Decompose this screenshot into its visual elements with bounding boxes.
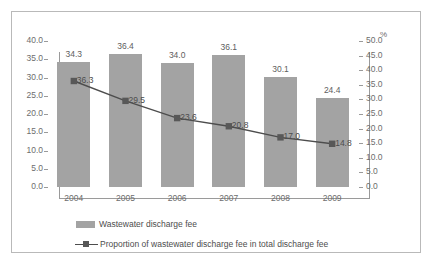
line-marker-icon <box>75 240 98 248</box>
left-axis-tick-label: 10.0 <box>1 146 43 155</box>
category-label-2006: 2006 <box>153 193 201 203</box>
right-axis-tick-mark <box>359 187 363 188</box>
right-axis-tick-mark <box>359 114 363 115</box>
category-label-2008: 2008 <box>257 193 305 203</box>
legend-item-line-label: Proportion of wastewater discharge fee i… <box>100 239 328 249</box>
left-axis-tick-label: 35.0 <box>1 54 43 63</box>
right-axis-tick-mark <box>359 41 363 42</box>
legend-item-bar-label: Wastewater discharge fee <box>99 219 197 229</box>
right-axis-tick-label: 30.0 <box>366 94 406 103</box>
right-axis-tick-label: 40.0 <box>366 65 406 74</box>
right-axis-tick-label: 20.0 <box>366 124 406 133</box>
right-axis-tick-mark <box>359 158 363 159</box>
left-axis-tick-label: 40.0 <box>1 36 43 45</box>
bar-swatch-icon <box>76 221 95 228</box>
line-value-label-2007: 20.8 <box>232 121 249 130</box>
line-value-label-2004: 36.3 <box>77 76 94 85</box>
legend-item-bar: Wastewater discharge fee <box>76 219 197 229</box>
chart-figure: % 0.05.010.015.020.025.030.035.040.0 0.0… <box>0 0 433 272</box>
right-axis-tick-mark <box>359 143 363 144</box>
category-label-2004: 2004 <box>50 193 98 203</box>
category-label-2009: 2009 <box>308 193 356 203</box>
right-axis-tick-mark <box>359 172 363 173</box>
right-axis-tick-mark <box>359 99 363 100</box>
right-axis-tick-label: 35.0 <box>366 80 406 89</box>
category-label-2005: 2005 <box>102 193 150 203</box>
left-axis-tick-label: 5.0 <box>1 164 43 173</box>
right-axis-tick-mark <box>359 129 363 130</box>
right-axis-tick-label: 10.0 <box>366 153 406 162</box>
left-axis-tick-label: 30.0 <box>1 73 43 82</box>
left-axis-tick-label: 15.0 <box>1 127 43 136</box>
line-value-label-2009: 14.8 <box>335 139 352 148</box>
right-axis-tick-label: 25.0 <box>366 109 406 118</box>
line-value-label-2006: 23.6 <box>180 113 197 122</box>
category-label-2007: 2007 <box>205 193 253 203</box>
left-axis-tick-label: 25.0 <box>1 91 43 100</box>
left-axis-tick-label: 20.0 <box>1 109 43 118</box>
right-axis-tick-label: 15.0 <box>366 138 406 147</box>
right-axis-tick-mark <box>359 56 363 57</box>
right-axis-tick-mark <box>359 70 363 71</box>
right-axis-tick-label: 50.0 <box>366 36 406 45</box>
right-axis-tick-label: 0.0 <box>366 182 406 191</box>
line-series <box>48 41 359 188</box>
right-axis-tick-label: 45.0 <box>366 51 406 60</box>
left-axis-tick-label: 0.0 <box>1 182 43 191</box>
right-axis-tick-mark <box>359 85 363 86</box>
chart-frame: % 0.05.010.015.020.025.030.035.040.0 0.0… <box>11 11 421 253</box>
line-value-label-2008: 17.0 <box>284 132 301 141</box>
legend-item-line: Proportion of wastewater discharge fee i… <box>75 239 328 249</box>
right-axis-tick-label: 5.0 <box>366 167 406 176</box>
line-value-label-2005: 29.5 <box>129 96 146 105</box>
